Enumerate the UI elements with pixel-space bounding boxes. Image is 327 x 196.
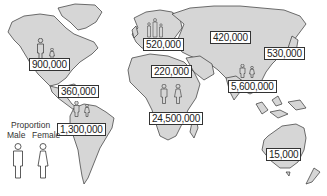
label-central-america: 360,000 [58,85,99,98]
male-figure-south-america [73,101,80,117]
female-figure-africa [174,84,182,104]
label-north-america: 900,000 [29,58,70,71]
label-south-southeast-asia: 5,600,000 [228,80,277,93]
label-north-africa-middle-east: 220,000 [151,65,192,78]
label-australia: 15,000 [266,148,301,161]
legend-male-label: Male [7,131,25,140]
male-figure-north-america [36,38,45,60]
figures-europe [144,18,166,38]
legend-female-label: Female [32,131,60,140]
legend-male-icon [12,143,24,179]
male-figure-south-asia [239,64,246,78]
legend-female-icon [37,143,49,179]
australia [262,124,306,168]
label-eastern-europe-central-asia: 420,000 [210,31,251,44]
male-figure-africa [160,84,168,104]
label-western-europe: 520,000 [143,38,184,51]
greenland [58,4,102,30]
label-sub-saharan-africa: 24,500,000 [149,112,203,125]
tasmania [286,172,290,176]
legend-title: Proportion [11,121,50,130]
female-figure-south-asia [249,66,255,78]
label-south-america: 1,300,000 [57,123,106,136]
female-figure-south-america [84,104,90,117]
indonesia [256,96,306,118]
new-zealand [306,168,320,184]
label-east-asia: 530,000 [264,47,305,60]
